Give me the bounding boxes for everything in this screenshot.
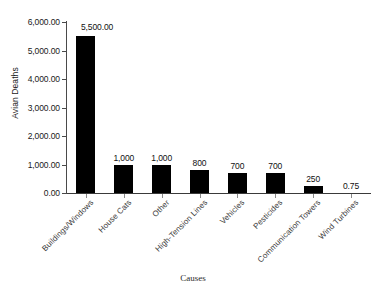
x-tick-mark <box>162 194 163 198</box>
x-tick-mark <box>275 194 276 198</box>
x-category-label-text: House Cats <box>97 198 134 235</box>
x-axis-title: Causes <box>0 273 386 283</box>
bars-layer: 5,500.001,0001,0008007007002500.75 <box>0 0 386 193</box>
x-category-label-text: Other <box>150 198 171 219</box>
x-tick-mark <box>351 194 352 198</box>
y-tick-mark <box>62 193 67 194</box>
bar-value-label: 5,500.00 <box>81 22 141 32</box>
x-tick-mark <box>86 194 87 198</box>
bar-value-label: 700 <box>245 161 305 171</box>
x-tick-mark <box>237 194 238 198</box>
bar-chart: Avian Deaths 0.001,000.002,000.003,000.0… <box>0 0 386 296</box>
x-tick-mark <box>200 194 201 198</box>
x-category-label-text: Vehicles <box>219 198 247 226</box>
bar <box>76 36 95 193</box>
x-tick-mark <box>124 194 125 198</box>
x-category-label-text: Wind Turbines <box>317 198 360 241</box>
x-tick-mark <box>313 194 314 198</box>
x-category-label-text: Buildings/Windows <box>40 198 95 253</box>
bar <box>190 170 209 193</box>
bar <box>266 173 285 193</box>
bar <box>304 186 323 193</box>
x-category-label-text: Pesticides <box>252 198 285 231</box>
